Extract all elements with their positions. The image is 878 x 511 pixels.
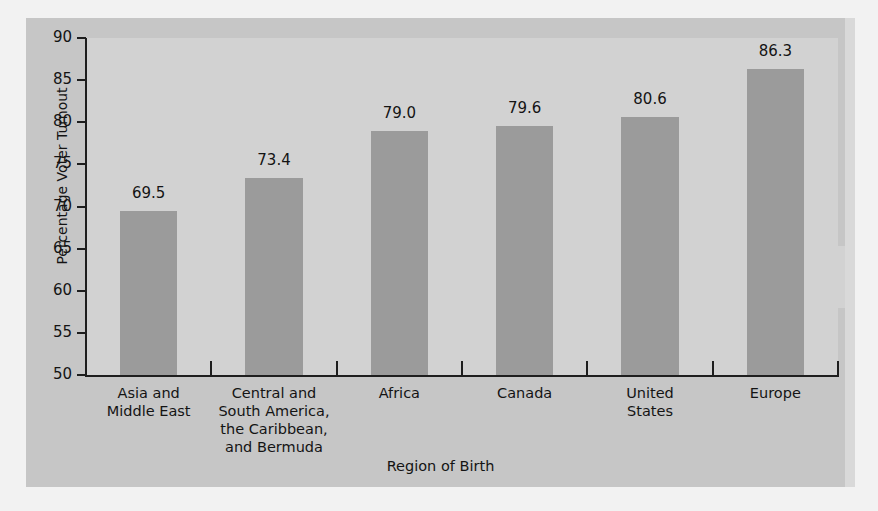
y-tick-50: [77, 374, 86, 376]
y-tick-85: [77, 79, 86, 81]
y-tick-70: [77, 206, 86, 208]
y-tick-65: [77, 248, 86, 250]
y-tick-label-55: 55: [26, 325, 72, 340]
y-tick-60: [77, 290, 86, 292]
y-tick-55: [77, 332, 86, 334]
bar: [245, 178, 302, 375]
figure-panel: 908580757065605550 69.573.479.079.680.68…: [26, 18, 855, 487]
y-tick-label-50: 50: [26, 367, 72, 382]
bar: [621, 117, 678, 375]
bar: [371, 131, 428, 375]
bar: [496, 126, 553, 375]
y-tick-label-90: 90: [26, 30, 72, 45]
bar-value-label: 86.3: [735, 44, 815, 59]
y-tick-80: [77, 121, 86, 123]
bar-value-label: 79.6: [485, 101, 565, 116]
category-label: Europe: [701, 384, 850, 402]
page-edge-strip-secondary: [837, 246, 845, 308]
y-tick-label-60: 60: [26, 283, 72, 298]
y-tick-90: [77, 37, 86, 39]
bars-layer: [86, 38, 838, 375]
y-axis-title: Percentage Voter Turnout: [54, 76, 70, 276]
x-axis-title: Region of Birth: [26, 458, 855, 474]
scanned-page: 908580757065605550 69.573.479.079.680.68…: [0, 0, 878, 511]
page-edge-strip: [845, 18, 855, 487]
bar-value-label: 69.5: [109, 186, 189, 201]
bar-value-label: 73.4: [234, 153, 314, 168]
bar-value-label: 79.0: [359, 106, 439, 121]
bar: [120, 211, 177, 375]
bar-value-label: 80.6: [610, 92, 690, 107]
y-tick-75: [77, 163, 86, 165]
bar: [747, 69, 804, 375]
